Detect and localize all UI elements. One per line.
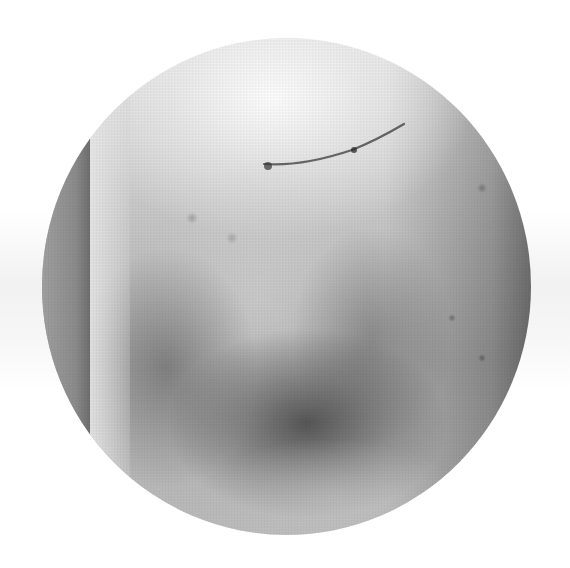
skin-photo-circle — [42, 38, 531, 535]
scar-line — [42, 38, 531, 535]
